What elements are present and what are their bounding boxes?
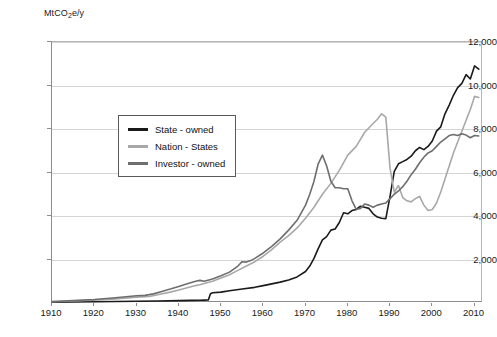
y-axis-tick-label: 12,000 <box>451 36 497 47</box>
x-axis-tick-label: 1940 <box>167 307 188 318</box>
x-axis-tick-mark <box>474 303 475 306</box>
chart-legend: State - owned Nation - States Investor -… <box>118 115 236 177</box>
series-lines-group <box>52 42 483 303</box>
legend-item-investor-owned: Investor - owned <box>119 155 235 172</box>
y-axis-tick-mark <box>47 172 51 173</box>
x-axis-tick-mark <box>136 303 137 306</box>
legend-swatch-nation-states <box>128 145 148 148</box>
x-axis-tick-mark <box>262 303 263 306</box>
y-axis-tick-mark <box>47 85 51 86</box>
y-axis-tick-mark <box>47 41 51 42</box>
x-axis-tick-mark <box>389 303 390 306</box>
y-axis-tick-mark <box>47 128 51 129</box>
y-axis-tick-label: 4,000 <box>451 210 497 221</box>
x-axis-tick-mark <box>220 303 221 306</box>
x-axis-tick-label: 1920 <box>83 307 104 318</box>
x-axis-tick-label: 2000 <box>421 307 442 318</box>
x-axis-tick-label: 1910 <box>40 307 61 318</box>
y-axis-title: MtCO2e/y <box>44 8 84 18</box>
series-line-state-owned <box>52 66 479 302</box>
legend-label-investor-owned: Investor - owned <box>155 158 225 169</box>
y-axis-tick-label: 10,000 <box>451 79 497 90</box>
y-axis-tick-mark <box>47 259 51 260</box>
x-axis-tick-mark <box>305 303 306 306</box>
x-axis-tick-mark <box>51 303 52 306</box>
legend-label-nation-states: Nation - States <box>155 141 218 152</box>
y-axis-tick-label: 2,000 <box>451 253 497 264</box>
series-line-nation-states <box>52 96 479 301</box>
x-axis-tick-label: 2010 <box>463 307 484 318</box>
series-line-investor-owned <box>52 134 479 302</box>
chart-container: MtCO2e/y 2,0004,0006,0008,00010,00012,00… <box>0 0 497 337</box>
legend-item-nation-states: Nation - States <box>119 138 235 155</box>
legend-swatch-state-owned <box>128 128 148 131</box>
legend-swatch-investor-owned <box>128 162 148 165</box>
y-axis-tick-mark <box>47 215 51 216</box>
x-axis-tick-label: 1950 <box>209 307 230 318</box>
x-axis-tick-mark <box>431 303 432 306</box>
plot-area <box>51 41 482 302</box>
x-axis-tick-label: 1970 <box>294 307 315 318</box>
legend-label-state-owned: State - owned <box>155 124 214 135</box>
x-axis-tick-label: 1980 <box>336 307 357 318</box>
y-axis-tick-label: 8,000 <box>451 123 497 134</box>
x-axis-tick-label: 1960 <box>252 307 273 318</box>
x-axis-tick-mark <box>347 303 348 306</box>
x-axis-tick-mark <box>93 303 94 306</box>
x-axis-tick-mark <box>178 303 179 306</box>
y-axis-title-subscript: 2 <box>68 12 72 19</box>
x-axis-tick-label: 1990 <box>378 307 399 318</box>
legend-item-state-owned: State - owned <box>119 121 235 138</box>
x-axis-tick-label: 1930 <box>125 307 146 318</box>
y-axis-tick-label: 6,000 <box>451 166 497 177</box>
